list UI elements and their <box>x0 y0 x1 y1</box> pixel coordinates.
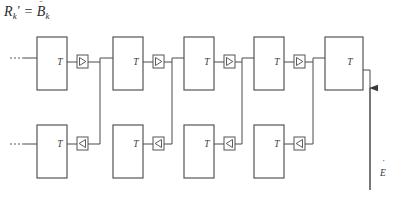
bottom-amplifier-2[interactable] <box>214 137 235 150</box>
top-row: T T T <box>37 37 363 90</box>
top-block-2[interactable]: T <box>184 37 214 90</box>
output-branch <box>363 70 370 190</box>
interconnect-wires <box>88 58 325 144</box>
ladder-network-figure: Rk′=̈Bk <box>0 0 395 199</box>
bottom-block-3-label: T <box>274 139 280 149</box>
top-amplifier-1[interactable] <box>143 55 164 68</box>
top-amplifier-0[interactable] <box>67 55 88 68</box>
top-block-0-label: T <box>57 57 63 67</box>
top-block-3[interactable]: T <box>254 37 284 90</box>
top-block-0[interactable]: T <box>37 37 67 90</box>
bottom-block-0-label: T <box>57 139 63 149</box>
top-block-4-label: T <box>347 57 353 67</box>
bottom-block-3[interactable]: T <box>254 125 284 178</box>
top-block-3-label: T <box>274 57 280 67</box>
bottom-block-1[interactable]: T <box>113 125 143 178</box>
output-label: E <box>379 168 386 178</box>
bottom-block-0[interactable]: T <box>37 125 67 178</box>
bottom-block-2-label: T <box>204 139 210 149</box>
top-block-2-label: T <box>204 57 210 67</box>
bottom-amplifier-1[interactable] <box>143 137 164 150</box>
top-amplifier-3[interactable] <box>284 55 305 68</box>
bottom-row: T T T <box>37 125 305 178</box>
diagram-canvas: T T T <box>0 0 395 199</box>
bottom-amplifier-3[interactable] <box>284 137 305 150</box>
bottom-block-1-label: T <box>133 139 139 149</box>
output-label-accent: ˙ <box>382 159 385 169</box>
bottom-block-2[interactable]: T <box>184 125 214 178</box>
top-block-1[interactable]: T <box>113 37 143 90</box>
bottom-amplifier-0[interactable] <box>67 137 88 150</box>
top-block-1-label: T <box>133 57 139 67</box>
top-amplifier-2[interactable] <box>214 55 235 68</box>
top-block-4[interactable]: T <box>325 37 363 90</box>
